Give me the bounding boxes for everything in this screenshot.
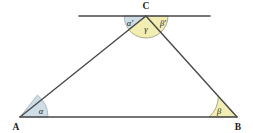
segment-bc [146,16,237,117]
geometry-figure: A B C α β α′ γ β′ [0,0,253,133]
angle-label-alpha-prime: α′ [127,18,133,28]
angle-label-alpha: α [39,106,44,116]
vertex-label-c: C [143,1,150,11]
angle-sector-beta [209,96,237,117]
angle-label-beta-prime: β′ [159,18,166,28]
vertex-label-b: B [235,122,242,132]
vertex-label-a: A [13,122,20,132]
segment-ac [20,16,146,117]
angle-label-beta: β [216,106,222,116]
geometry-canvas: A B C α β α′ γ β′ [0,0,253,133]
